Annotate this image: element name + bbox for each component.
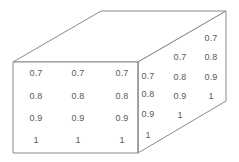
front-face-value: 0.7 [115,69,128,78]
front-face-value: 0.8 [71,92,84,101]
front-face-value: 0.7 [71,69,84,78]
front-face-value: 0.8 [115,92,128,101]
right-face-value: 1 [208,92,213,101]
front-face-value: 1 [75,136,80,145]
front-face-value: 0.9 [71,114,84,123]
figure-root: 0.70.70.70.80.80.80.90.90.9111 0.70.80.9… [0,0,239,162]
right-face-value: 0.7 [173,53,186,62]
right-face-value: 1 [145,131,150,140]
front-face-value: 1 [119,136,124,145]
right-face-value: 0.8 [141,90,154,99]
right-face-value: 1 [177,111,182,120]
front-face-value: 0.9 [115,114,128,123]
right-face-value: 0.9 [141,110,154,119]
right-face-value: 0.8 [173,73,186,82]
right-face-value: 0.8 [204,53,217,62]
right-face-value: 0.9 [173,92,186,101]
front-face-value: 0.7 [29,69,42,78]
right-face-value: 0.7 [204,34,217,43]
right-face-value: 0.9 [204,73,217,82]
right-face-value: 0.7 [141,72,154,81]
front-face-value: 0.8 [29,92,42,101]
front-face-value: 1 [33,136,38,145]
front-face-value: 0.9 [29,114,42,123]
